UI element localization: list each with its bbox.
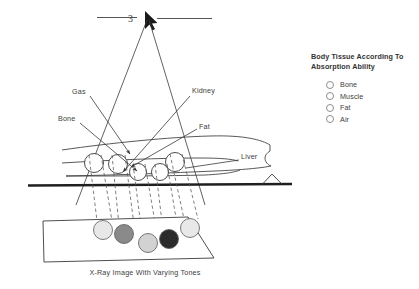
structure-liver [166, 153, 185, 172]
body-outline-notch-right [265, 145, 271, 166]
legend-title-line2: Absorption Ability [311, 62, 415, 72]
tone-bone [115, 225, 134, 244]
figure-caption: X-Ray Image With Varying Tones [0, 268, 290, 277]
leader-fat [131, 129, 197, 167]
label-fat: Fat [199, 123, 210, 131]
radio-icon-air[interactable] [326, 115, 334, 123]
label-gas: Gas [72, 88, 86, 96]
table-surface [28, 184, 292, 186]
legend-title: Body Tissue According To Absorption Abil… [311, 52, 415, 72]
structure-gas [85, 154, 104, 173]
radio-icon-muscle[interactable] [326, 92, 334, 100]
body-outline-top [62, 136, 270, 150]
diagram-canvas: Gas Bone Kidney Fat Liver 3 Body Tissue … [0, 0, 419, 289]
tone-liver [181, 219, 200, 238]
xray-diagram-svg [0, 0, 419, 289]
label-liver: Liver [241, 153, 257, 161]
legend-item-fat[interactable]: Fat [326, 102, 415, 114]
legend-panel: Body Tissue According To Absorption Abil… [311, 52, 415, 125]
xray-source-group [97, 11, 212, 31]
leader-liver [186, 160, 239, 168]
legend-label-fat: Fat [340, 103, 351, 112]
radio-icon-bone[interactable] [326, 81, 334, 89]
legend-label-air: Air [340, 115, 349, 124]
legend-item-muscle[interactable]: Muscle [326, 90, 415, 102]
label-kidney: Kidney [192, 87, 215, 95]
legend-item-air[interactable]: Air [326, 113, 415, 125]
radio-icon-fat[interactable] [326, 104, 334, 112]
legend-title-line1: Body Tissue According To [311, 52, 415, 62]
tone-gas [94, 221, 113, 240]
legend-item-bone[interactable]: Bone [326, 79, 415, 91]
legend-options-list: Bone Muscle Fat Air [311, 79, 415, 125]
tone-kidney [139, 234, 158, 253]
legend-label-bone: Bone [340, 80, 357, 89]
tone-fat [160, 230, 179, 249]
legend-label-muscle: Muscle [340, 92, 363, 101]
label-bone: Bone [58, 115, 75, 123]
source-marker-3: 3 [128, 13, 133, 24]
